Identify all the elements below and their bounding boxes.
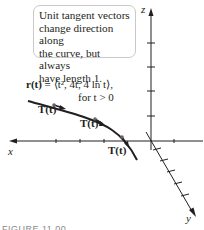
y-axis-label: y — [186, 212, 191, 224]
curve-equation: r(t) = ⟨t², 4t, 4 ln t⟩, — [26, 78, 113, 90]
tangent-label-1: T(t) — [38, 103, 56, 115]
callout-line: change direction along — [39, 22, 130, 47]
equation-rhs: ⟨t², 4t, 4 ln t⟩, — [54, 78, 113, 90]
x-axis-label: x — [8, 145, 13, 157]
z-axis-label: z — [141, 3, 145, 15]
tangent-label-3: T(t) — [108, 144, 126, 156]
callout-line: the curve, but always — [39, 47, 130, 72]
callout-line: Unit tangent vectors — [39, 9, 130, 22]
equation-condition: for t > 0 — [78, 91, 114, 103]
x-axis-arrow-icon — [9, 139, 17, 144]
figure-caption: FIGURE 11.00 — [2, 224, 66, 230]
callout-box: Unit tangent vectors change direction al… — [33, 5, 136, 58]
equation-lhs: r(t) = — [26, 78, 54, 90]
z-axis-arrow-icon — [149, 8, 154, 16]
y-axis — [146, 132, 193, 213]
tangent-label-2: T(t) — [80, 117, 98, 129]
